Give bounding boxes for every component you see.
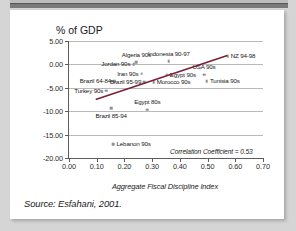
x-axis-tick-label: 0.70 [256,162,270,171]
slide-content-card: % of GDP 5.000.00-5.00-10.00-15.00-20.00… [10,10,284,219]
data-point-marker [135,61,138,64]
plot-area: 5.000.00-5.00-10.00-15.00-20.000.000.100… [68,41,263,159]
x-axis-tick-label: 0.10 [90,162,104,171]
x-axis-tick-label: 0.20 [118,162,132,171]
data-point-marker [205,80,208,83]
data-point-label: Brazil 64-84 [80,78,111,85]
data-point-label: Indonesia 90-97 [148,50,190,57]
data-point-label: Lebanon 90s [117,141,151,148]
data-point-marker [110,107,113,110]
y-axis-tick-label: 5.00 [49,37,63,46]
y-axis-tick [65,135,69,136]
data-point-label: Brazil 85-94 [96,113,127,120]
slide-top-bar [10,3,288,8]
data-point-marker [140,72,143,75]
data-point-label: USA 90s [192,64,215,71]
data-point-label: Tunisia 90s [210,78,240,85]
data-point-marker [226,55,229,58]
y-axis-tick [65,64,69,65]
y-axis-tick-label: -15.00 [43,130,63,139]
data-point-marker [152,81,155,84]
data-point-label: Algeria 90s [122,51,151,58]
gridline [69,41,263,42]
y-axis-tick-label: 0.00 [49,60,63,69]
y-axis-tick [65,88,69,89]
gridline [69,64,263,65]
y-axis-tick [65,111,69,112]
y-axis-tick [65,41,69,42]
y-axis-title: % of GDP [56,24,103,36]
data-point-label: Brazil 95-99 [110,79,141,86]
source-note: Source: Esfahani, 2001. [24,198,122,209]
y-axis-tick-label: -20.00 [43,154,63,163]
data-point-label: Egypt 80s [134,99,160,106]
data-point-label: Egypt 90s [170,71,196,78]
x-axis-tick-label: 0.50 [201,162,215,171]
data-point-marker [112,143,115,146]
data-point-marker [146,108,149,111]
x-axis-tick-label: 0.00 [62,162,76,171]
scatter-chart: % of GDP 5.000.00-5.00-10.00-15.00-20.00… [10,10,284,219]
y-axis-tick-label: -10.00 [43,107,63,116]
data-point-label: Turkey 90s [74,87,103,94]
x-axis-tick-label: 0.30 [145,162,159,171]
data-point-label: Iran 90s [117,70,138,77]
data-point-label: NZ 94-98 [231,53,256,60]
x-axis-title: Aggregate Fiscal Discipline Index [68,182,262,191]
data-point-marker [167,60,170,63]
data-point-marker [203,73,206,76]
data-point-marker [143,81,146,84]
data-point-marker [105,89,108,92]
gridline [69,135,263,136]
data-point-marker [165,73,168,76]
y-axis-tick-label: -5.00 [47,83,63,92]
x-axis-tick-label: 0.40 [173,162,187,171]
data-point-label: Morocco 90s [157,79,191,86]
data-point-marker [132,63,135,66]
correlation-annotation: Correlation Coefficient = 0.53 [170,148,253,155]
data-point-label: Jordan 90s [101,61,130,68]
x-axis-tick-label: 0.60 [228,162,242,171]
slide-background: % of GDP 5.000.00-5.00-10.00-15.00-20.00… [0,0,296,231]
